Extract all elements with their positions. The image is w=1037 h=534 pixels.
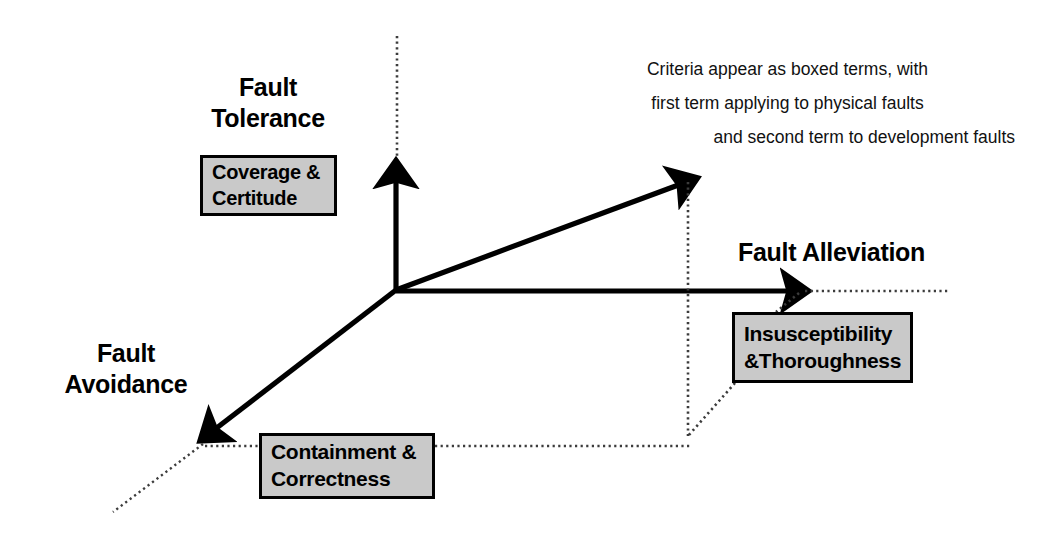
axis-label-fault-tolerance: Fault Tolerance [168,72,368,133]
annotation-line-1: Criteria appear as boxed terms, with [560,52,1015,86]
criteria-box-insusceptibility-thoroughness: Insusceptibility &Thoroughness [732,312,913,383]
leader-line-insusceptibility [776,293,799,312]
annotation-line-3: and second term to development faults [560,120,1015,154]
criteria-box-containment-correctness: Containment & Correctness [259,433,435,499]
arrow-diagonal-upright [396,184,681,290]
annotation-line-2: first term applying to physical faults [560,86,1015,120]
criteria-box-coverage-certitude: Coverage & Certitude [200,155,337,216]
leader-line-insusceptibility-lower [688,383,735,436]
axis-label-fault-alleviation: Fault Alleviation [738,237,998,268]
arrow-fault-avoidance [214,290,396,430]
axis-label-fault-avoidance: Fault Avoidance [26,338,226,399]
diagram-canvas: Fault Tolerance Fault Avoidance Fault Al… [0,0,1037,534]
dotted-axis-avoidance-extension [113,444,203,512]
annotation-note: Criteria appear as boxed terms, with fir… [560,52,1015,154]
